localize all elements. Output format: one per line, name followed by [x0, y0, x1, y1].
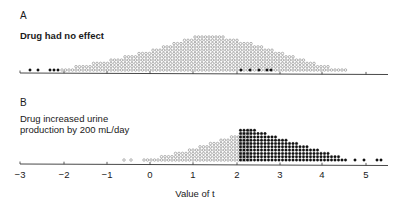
open-dot [199, 159, 202, 162]
open-dot [222, 49, 225, 52]
open-dot [299, 65, 302, 68]
open-dot [162, 56, 165, 59]
open-dot [190, 46, 193, 49]
open-dot [141, 69, 144, 72]
open-dot [110, 59, 113, 62]
open-dot [145, 69, 148, 72]
open-dot [222, 42, 225, 45]
open-dot [222, 46, 225, 49]
open-dot [274, 62, 277, 65]
open-dot [148, 56, 151, 59]
open-dot [204, 42, 207, 45]
open-dot [341, 69, 344, 72]
open-dot [220, 159, 223, 162]
open-dot [103, 62, 106, 65]
open-dot [155, 56, 158, 59]
open-dot [176, 65, 179, 68]
filled-dot [240, 69, 243, 72]
filled-dot [250, 149, 253, 152]
filled-dot [257, 132, 260, 135]
filled-dot [258, 69, 261, 72]
open-dot [194, 56, 197, 59]
open-dot [124, 62, 127, 65]
open-dot [106, 62, 109, 65]
open-dot [236, 46, 239, 49]
filled-dot [278, 159, 281, 162]
open-dot [334, 69, 337, 72]
open-dot [120, 69, 123, 72]
filled-dot [250, 155, 253, 158]
open-dot [174, 152, 177, 155]
tick-label: 1 [190, 169, 195, 180]
open-dot [110, 69, 113, 72]
open-dot [236, 65, 239, 68]
open-dot [190, 65, 193, 68]
open-dot [209, 152, 212, 155]
filled-dot [253, 149, 256, 152]
open-dot [220, 146, 223, 149]
tick-label: −2 [59, 169, 70, 180]
open-dot [152, 62, 155, 65]
open-dot [213, 142, 216, 145]
open-dot [323, 69, 326, 72]
open-dot [192, 159, 195, 162]
filled-dot [278, 155, 281, 158]
filled-dot [246, 132, 249, 135]
open-dot [218, 59, 221, 62]
open-dot [225, 52, 228, 55]
open-dot [178, 159, 181, 162]
open-dot [229, 49, 232, 52]
open-dot [82, 65, 85, 68]
filled-dot [285, 149, 288, 152]
filled-dot [285, 142, 288, 145]
open-dot [230, 159, 233, 162]
open-dot [232, 52, 235, 55]
filled-dot [285, 159, 288, 162]
filled-dot [260, 142, 263, 145]
open-dot [127, 56, 130, 59]
open-dot [225, 49, 228, 52]
open-dot [215, 62, 218, 65]
filled-dot [278, 149, 281, 152]
filled-dot [320, 159, 323, 162]
open-dot [202, 149, 205, 152]
open-dot [148, 52, 151, 55]
open-dot [211, 39, 214, 42]
open-dot [201, 59, 204, 62]
open-dot [208, 42, 211, 45]
open-dot [187, 65, 190, 68]
filled-dot [274, 159, 277, 162]
open-dot [216, 142, 219, 145]
open-dot [211, 56, 214, 59]
open-dot [232, 49, 235, 52]
filled-dot [316, 152, 319, 155]
open-dot [187, 42, 190, 45]
open-dot [176, 42, 179, 45]
open-dot [213, 146, 216, 149]
filled-dot [264, 136, 267, 139]
tick-label: 5 [363, 169, 368, 180]
open-dot [215, 39, 218, 42]
filled-dot [302, 146, 305, 149]
filled-dot [250, 129, 253, 132]
open-dot [75, 69, 78, 72]
open-dot [75, 65, 78, 68]
filled-dot [260, 155, 263, 158]
open-dot [302, 69, 305, 72]
filled-dot [288, 159, 291, 162]
open-dot [250, 65, 253, 68]
open-dot [85, 65, 88, 68]
open-dot [236, 49, 239, 52]
open-dot [178, 155, 181, 158]
open-dot [204, 46, 207, 49]
filled-dot [274, 152, 277, 155]
filled-dot [246, 146, 249, 149]
filled-dot [309, 159, 312, 162]
filled-dot [264, 152, 267, 155]
open-dot [281, 56, 284, 59]
open-dot [194, 36, 197, 39]
open-dot [243, 52, 246, 55]
open-dot [227, 152, 230, 155]
open-dot [313, 65, 316, 68]
open-dot [281, 52, 284, 55]
